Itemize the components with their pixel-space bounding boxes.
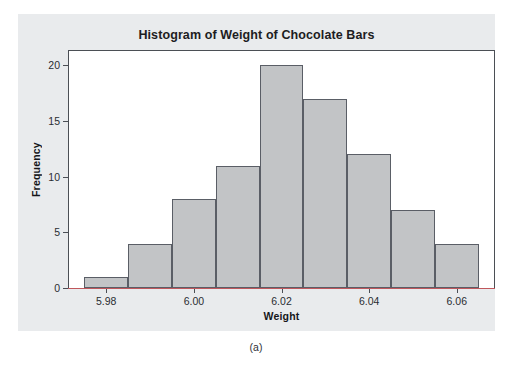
y-axis-tick [63, 65, 69, 66]
histogram-bar [435, 244, 479, 289]
x-axis-tick-label: 6.02 [271, 295, 291, 307]
plot-area [69, 51, 494, 288]
y-axis-tick-label: 15 [48, 115, 60, 127]
baseline-accent [68, 288, 495, 289]
x-axis-title: Weight [68, 310, 495, 322]
y-axis-tick-label: 20 [48, 59, 60, 71]
histogram-bar [216, 166, 260, 288]
y-axis-tick-label: 0 [54, 282, 60, 294]
plot-frame: 051015205.986.006.026.046.06 [68, 50, 495, 289]
figure-caption: (a) [0, 341, 512, 353]
histogram-bar [391, 210, 435, 288]
histogram-bar [260, 65, 304, 288]
histogram-bar [303, 99, 347, 288]
x-axis-tick-label: 5.98 [96, 295, 116, 307]
y-axis-tick [63, 232, 69, 233]
histogram-bar [347, 154, 391, 288]
x-axis-tick-label: 6.06 [447, 295, 467, 307]
x-axis-tick-label: 6.00 [184, 295, 204, 307]
y-axis-tick [63, 177, 69, 178]
histogram-bar [84, 277, 128, 288]
histogram-bar [128, 244, 172, 289]
x-axis-tick-label: 6.04 [359, 295, 379, 307]
y-axis-tick-label: 10 [48, 171, 60, 183]
chart-title: Histogram of Weight of Chocolate Bars [18, 28, 495, 42]
y-axis-title: Frequency [30, 50, 42, 289]
y-axis-tick [63, 121, 69, 122]
histogram-bar [172, 199, 216, 288]
y-axis-tick-label: 5 [54, 226, 60, 238]
figure-panel: Histogram of Weight of Chocolate Bars Fr… [18, 14, 495, 331]
